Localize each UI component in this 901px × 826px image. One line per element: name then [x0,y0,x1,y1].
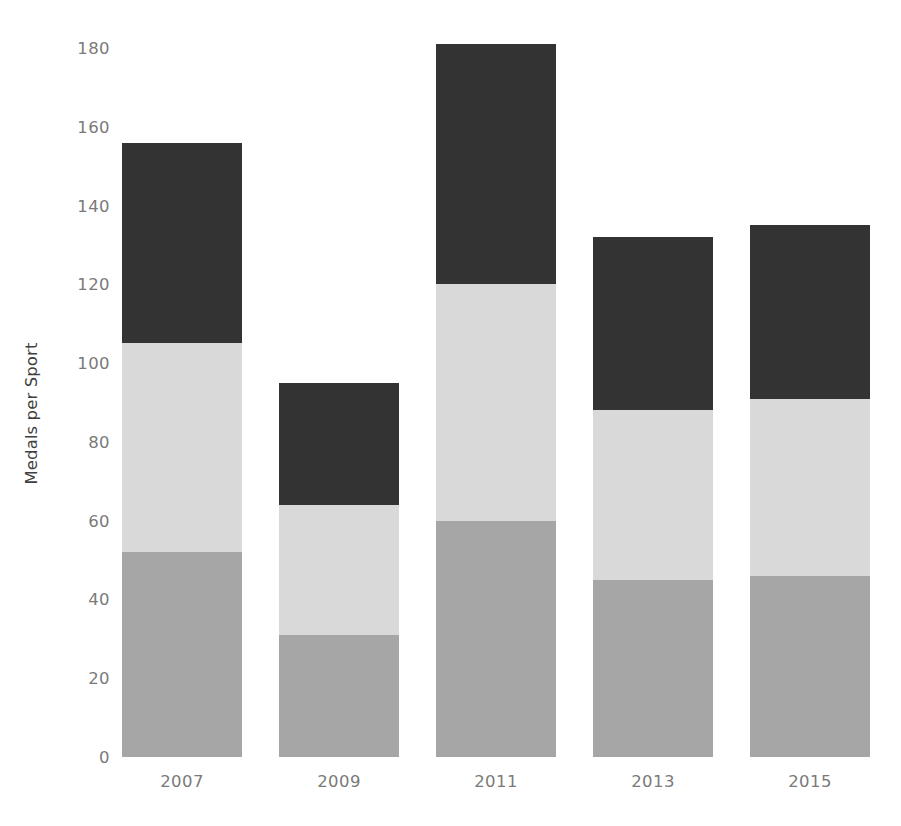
bar-segment-bottom-segment-2013[interactable] [593,580,713,757]
x-axis-tick-2011: 2011 [436,772,556,791]
y-axis-title: Medals per Sport [16,0,48,826]
bar-stack [122,143,242,757]
x-axis-tick-2013: 2013 [593,772,713,791]
bar-stack [279,383,399,757]
bar-segment-middle-segment-2015[interactable] [750,399,870,576]
bar-segment-middle-segment-2013[interactable] [593,410,713,579]
y-axis-tick-40: 40 [48,590,110,609]
bar-segment-middle-segment-2011[interactable] [436,284,556,520]
plot-area [112,48,888,757]
y-axis-tick-0: 0 [48,748,110,767]
bar-segment-bottom-segment-2011[interactable] [436,521,556,757]
y-axis-tick-20: 20 [48,669,110,688]
x-axis-tick-2007: 2007 [122,772,242,791]
y-axis-tick-180: 180 [48,39,110,58]
y-axis-tick-160: 160 [48,117,110,136]
bar-stack [436,44,556,757]
y-axis-title-label: Medals per Sport [23,342,42,484]
bar-segment-top-segment-2015[interactable] [750,225,870,398]
bar-stack [750,225,870,757]
x-axis-tick-2015: 2015 [750,772,870,791]
bar-group-2011[interactable] [436,44,556,757]
bar-segment-top-segment-2013[interactable] [593,237,713,410]
x-axis-tick-2009: 2009 [279,772,399,791]
y-axis-tick-100: 100 [48,354,110,373]
x-axis-tick-labels: 20072009201120132015 [112,772,888,812]
bar-group-2007[interactable] [122,143,242,757]
bar-segment-middle-segment-2009[interactable] [279,505,399,635]
y-axis-tick-60: 60 [48,511,110,530]
y-axis-tick-labels: 020406080100120140160180 [48,0,110,826]
bar-group-2015[interactable] [750,225,870,757]
bar-segment-top-segment-2007[interactable] [122,143,242,344]
bar-series-container [112,48,888,757]
bar-segment-bottom-segment-2009[interactable] [279,635,399,757]
y-axis-tick-120: 120 [48,275,110,294]
y-axis-tick-140: 140 [48,196,110,215]
y-axis-tick-80: 80 [48,432,110,451]
stacked-bar-chart: Medals per Sport 02040608010012014016018… [0,0,901,826]
bar-segment-top-segment-2009[interactable] [279,383,399,505]
bar-group-2009[interactable] [279,383,399,757]
bar-group-2013[interactable] [593,237,713,757]
bar-segment-bottom-segment-2007[interactable] [122,552,242,757]
bar-segment-bottom-segment-2015[interactable] [750,576,870,757]
bar-stack [593,237,713,757]
bar-segment-top-segment-2011[interactable] [436,44,556,284]
bar-segment-middle-segment-2007[interactable] [122,343,242,552]
